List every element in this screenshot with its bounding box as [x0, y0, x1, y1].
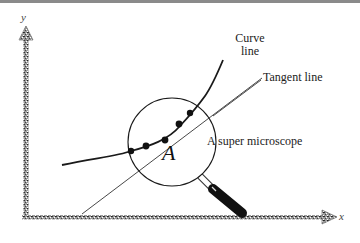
point-a-label: A	[162, 142, 175, 164]
dot	[176, 121, 183, 128]
y-axis-label: y	[21, 11, 26, 24]
curve-line-label-2: line	[233, 45, 267, 58]
y-axis-arrow-icon	[19, 26, 33, 40]
microscope-label: A super microscope	[207, 135, 302, 148]
x-axis-arrow-icon	[322, 210, 337, 224]
tangent-line-label: Tangent line	[263, 71, 322, 84]
dot	[143, 143, 150, 150]
magnifier-handle	[200, 176, 242, 213]
diagram-canvas	[0, 0, 360, 243]
dots	[128, 110, 193, 154]
curve-line	[62, 60, 223, 165]
x-axis-label: x	[339, 210, 344, 223]
dot	[128, 148, 134, 154]
tangent-leader	[213, 80, 261, 116]
y-axis	[19, 26, 33, 219]
x-axis	[22, 210, 337, 224]
curve-line-label: Curve line	[233, 32, 267, 58]
dot	[187, 110, 193, 116]
